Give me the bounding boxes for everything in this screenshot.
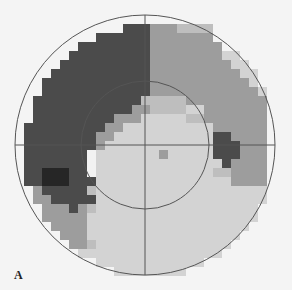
grid-cell xyxy=(168,132,177,141)
grid-cell xyxy=(213,42,222,51)
grid-cell xyxy=(105,78,114,87)
grid-cell xyxy=(96,60,105,69)
grid-cell xyxy=(87,231,96,240)
grid-cell xyxy=(150,204,159,213)
grid-cell xyxy=(96,150,105,159)
grid-cell xyxy=(96,42,105,51)
grid-cell xyxy=(132,24,141,33)
grid-cell xyxy=(87,51,96,60)
grid-cell xyxy=(24,168,33,177)
grid-cell xyxy=(123,105,132,114)
grid-cell xyxy=(87,42,96,51)
grid-cell xyxy=(150,114,159,123)
grid-cell xyxy=(213,123,222,132)
grid-cell xyxy=(96,33,105,42)
grid-cell xyxy=(213,51,222,60)
grid-cell xyxy=(150,42,159,51)
grid-cell xyxy=(69,195,78,204)
grid-cell xyxy=(105,141,114,150)
grid-cell xyxy=(213,240,222,249)
grid-cell xyxy=(177,114,186,123)
grid-cell xyxy=(195,132,204,141)
grid-cell xyxy=(177,186,186,195)
grid-cell xyxy=(177,105,186,114)
grid-cell xyxy=(159,105,168,114)
grid-cell xyxy=(132,168,141,177)
grid-cell xyxy=(150,258,159,267)
grid-cell xyxy=(186,132,195,141)
grid-cell xyxy=(195,123,204,132)
grid-cell xyxy=(60,177,69,186)
grid-cell xyxy=(114,213,123,222)
grid-cell xyxy=(87,150,96,159)
grid-cell xyxy=(105,240,114,249)
grid-cell xyxy=(123,177,132,186)
grid-cell xyxy=(168,96,177,105)
grid-cell xyxy=(132,123,141,132)
grid-cell xyxy=(240,60,249,69)
grid-cell xyxy=(87,186,96,195)
grid-cell xyxy=(213,141,222,150)
grid-cell xyxy=(213,177,222,186)
grid-cell xyxy=(96,69,105,78)
grid-cell xyxy=(132,78,141,87)
grid-cell xyxy=(141,258,150,267)
grid-cell xyxy=(177,69,186,78)
grid-cell xyxy=(177,258,186,267)
grid-cell xyxy=(150,159,159,168)
grid-cell xyxy=(177,132,186,141)
grid-cell xyxy=(141,195,150,204)
grid-cell xyxy=(132,132,141,141)
grid-cell xyxy=(105,132,114,141)
grid-cell xyxy=(105,114,114,123)
grid-cell xyxy=(105,69,114,78)
grid-cell xyxy=(177,168,186,177)
grid-cell xyxy=(78,240,87,249)
grid-cell xyxy=(114,231,123,240)
grid-cell xyxy=(33,195,42,204)
grid-cell xyxy=(123,204,132,213)
grid-cell xyxy=(114,78,123,87)
grid-cell xyxy=(150,222,159,231)
grid-cell xyxy=(231,222,240,231)
grid-cell xyxy=(51,177,60,186)
grid-cell xyxy=(240,114,249,123)
grid-cell xyxy=(222,213,231,222)
grid-cell xyxy=(222,186,231,195)
grid-cell xyxy=(150,141,159,150)
grid-cell xyxy=(42,213,51,222)
grid-cell xyxy=(240,222,249,231)
grid-cell xyxy=(249,87,258,96)
grid-cell xyxy=(78,213,87,222)
grid-cell xyxy=(204,204,213,213)
grid-cell xyxy=(96,87,105,96)
grid-cell xyxy=(222,78,231,87)
grid-cell xyxy=(159,123,168,132)
grid-cell xyxy=(60,87,69,96)
grid-cell xyxy=(87,168,96,177)
grid-cell xyxy=(213,168,222,177)
grid-cell xyxy=(96,258,105,267)
grid-cell xyxy=(141,87,150,96)
grid-cell xyxy=(258,96,267,105)
grid-cell xyxy=(141,60,150,69)
grid-cell xyxy=(258,132,267,141)
grid-cell xyxy=(195,150,204,159)
grid-cell xyxy=(204,240,213,249)
grid-cell xyxy=(240,96,249,105)
grid-cell xyxy=(105,42,114,51)
grid-cell xyxy=(105,231,114,240)
grid-cell xyxy=(186,141,195,150)
grid-cell xyxy=(231,69,240,78)
grid-cell xyxy=(231,60,240,69)
grid-cell xyxy=(159,150,168,159)
grid-cell xyxy=(123,33,132,42)
grid-cell xyxy=(249,69,258,78)
grid-cell xyxy=(195,105,204,114)
grid-cell xyxy=(177,24,186,33)
grid-cell xyxy=(213,60,222,69)
grid-cell xyxy=(105,168,114,177)
grid-cell xyxy=(78,204,87,213)
grid-cell xyxy=(132,105,141,114)
grid-cell xyxy=(24,150,33,159)
